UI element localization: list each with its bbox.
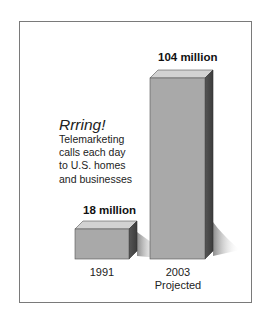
bar-1991-front [75,229,129,259]
annotation-line-1: Telemarketing [59,133,149,146]
bar-1991-top [75,221,137,229]
category-label-1991: 1991 [80,266,124,279]
bar-2003[interactable] [150,70,213,259]
annotation-line-2: calls each day [59,146,149,159]
category-year: 2003 [166,266,190,278]
bar-2003-top [150,70,213,78]
bar-2003-side [205,70,213,259]
bar-1991[interactable] [75,221,137,259]
category-label-2003: 2003 Projected [150,266,206,292]
value-label-1991: 18 million [83,204,136,216]
category-sub: Projected [155,279,201,291]
annotation-line-3: to U.S. homes [59,159,149,172]
annotation-line-4: and businesses [59,173,149,186]
chart-annotation: Rrring! Telemarketing calls each day to … [59,116,149,186]
value-label-2003: 104 million [158,51,217,63]
bar-2003-front [150,78,205,259]
annotation-exclaim: Rrring! [59,116,149,133]
category-year: 1991 [90,266,114,278]
